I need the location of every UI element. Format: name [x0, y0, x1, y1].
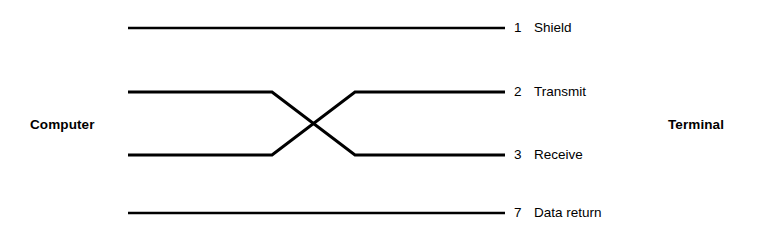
pin-name: Data return [534, 206, 602, 220]
pin-number: 7 [514, 206, 534, 220]
pin-number: 1 [514, 21, 534, 35]
wiring-diagram: Computer Terminal 1 Shield 2 Transmit 3 … [0, 0, 771, 246]
terminal-endpoint-label: Terminal [668, 118, 724, 132]
pin-number: 3 [514, 148, 534, 162]
pin-label-transmit: 2 Transmit [514, 85, 586, 99]
pin-name: Receive [534, 148, 583, 162]
pin-name: Transmit [534, 85, 586, 99]
pin-name: Shield [534, 21, 572, 35]
wiring-lines-svg [0, 0, 771, 246]
pin-number: 2 [514, 85, 534, 99]
pin-label-receive: 3 Receive [514, 148, 583, 162]
transmit-line [128, 92, 505, 155]
pin-label-shield: 1 Shield [514, 21, 572, 35]
receive-line [128, 92, 505, 155]
pin-label-data-return: 7 Data return [514, 206, 602, 220]
computer-endpoint-label: Computer [30, 118, 95, 132]
